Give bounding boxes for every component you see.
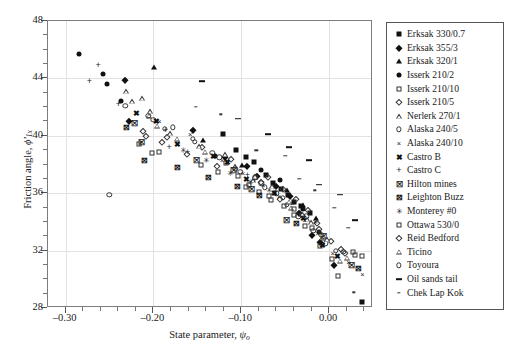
data-point (202, 149, 208, 154)
data-point (300, 202, 306, 207)
legend-item-chek-lap-kok[interactable]: Chek Lap Kok (393, 285, 503, 299)
data-point: × (261, 182, 265, 187)
data-point: ✳ (297, 209, 304, 214)
legend-label: Chek Lap Kok (406, 287, 464, 298)
data-point (280, 195, 285, 200)
data-point: ⊠ (293, 221, 300, 226)
data-point (273, 183, 279, 189)
data-point: ☒ (230, 168, 237, 173)
legend-item-erksak-330-0-7[interactable]: Erksak 330/0.7 (393, 27, 503, 41)
legend-item-toyoura[interactable]: Toyoura (393, 258, 503, 272)
marker-circle-open-sm (396, 263, 401, 268)
data-point (198, 162, 203, 167)
data-point: ✳ (312, 219, 319, 224)
data-point (257, 178, 263, 184)
data-point (219, 114, 222, 115)
data-point: ☒ (283, 218, 290, 223)
data-point (253, 175, 258, 180)
data-point (284, 188, 290, 193)
legend-item-isserk-210-5[interactable]: Isserk 210/5 (393, 95, 503, 109)
data-point (235, 173, 240, 178)
data-point (344, 255, 350, 260)
legend-item-nerlerk-270-1[interactable]: Nerlerk 270/1 (393, 109, 503, 123)
legend-label: Oil sands tail (406, 273, 458, 284)
legend-label: Monterey #0 (406, 205, 456, 216)
legend-item-ticino[interactable]: Ticino (393, 245, 503, 259)
gridline-vertical (153, 21, 154, 306)
marker-x: × (397, 141, 401, 146)
data-point: × (277, 194, 281, 199)
data-point (308, 219, 314, 224)
marker-square-x: ⊠ (396, 195, 403, 200)
legend-marker-triangle-filled-icon (393, 54, 406, 67)
legend-item-leighton-buzz[interactable]: ⊠Leighton Buzz (393, 190, 503, 204)
data-point (291, 212, 296, 217)
data-point (194, 106, 197, 107)
data-point (352, 292, 355, 293)
legend-label: Isserk 210/10 (406, 83, 459, 94)
data-point (305, 207, 311, 213)
data-point (319, 235, 325, 240)
legend-marker-x-bold-icon: ✖ (393, 150, 406, 163)
marker-star: ✳ (396, 209, 403, 214)
data-point (123, 89, 129, 94)
legend-label: Erksak 355/3 (406, 42, 458, 53)
data-point (298, 204, 303, 209)
legend-label: Isserk 210/2 (406, 69, 454, 80)
data-point: ⊠ (174, 165, 181, 170)
legend-label: Leighton Buzz (406, 191, 464, 202)
legend-item-oil-sands-tail[interactable]: Oil sands tail (393, 272, 503, 286)
legend-item-ottawa-530-0[interactable]: Ottawa 530/0 (393, 217, 503, 231)
data-point (190, 127, 196, 133)
legend-item-erksak-320-1[interactable]: Erksak 320/1 (393, 54, 503, 68)
marker-triangle-open (396, 113, 402, 118)
legend-item-isserk-210-2[interactable]: Isserk 210/2 (393, 68, 503, 82)
legend-item-monterey-0[interactable]: ✳Monterey #0 (393, 204, 503, 218)
data-point (314, 220, 320, 226)
data-point: + (245, 172, 250, 177)
marker-circle-filled (397, 73, 402, 78)
data-point: ⊠ (355, 265, 362, 270)
x-tick-minor (223, 307, 224, 311)
legend-item-reid-bedford[interactable]: Reid Bedford (393, 231, 503, 245)
y-tick-label: 28 (3, 302, 43, 313)
legend-item-erksak-355-3[interactable]: Erksak 355/3 (393, 41, 503, 55)
data-point (250, 178, 256, 183)
data-point: × (157, 119, 161, 124)
data-point (222, 152, 228, 157)
data-point (282, 204, 287, 209)
data-point (298, 178, 301, 179)
legend-marker-dash-long-icon (393, 272, 406, 285)
legend-item-isserk-210-10[interactable]: Isserk 210/10 (393, 81, 503, 95)
data-point (244, 163, 250, 169)
data-point: + (163, 128, 168, 133)
data-point: ✖ (300, 215, 307, 220)
data-point (232, 163, 238, 168)
legend-item-hilton-mines[interactable]: ☒Hilton mines (393, 177, 503, 191)
data-point (296, 210, 302, 216)
legend-marker-triangle-open-sm-icon (393, 245, 406, 258)
data-point (252, 173, 258, 178)
data-point (352, 220, 358, 222)
x-tick-minor (205, 307, 206, 311)
x-tick-label: –0.30 (42, 313, 88, 324)
figure-root: 283236404448 ××××××××××××✖✖✖✖✖✖✖✖✖✖+++++… (0, 0, 510, 353)
x-tick-minor (346, 307, 347, 311)
legend-label: Alaska 240/5 (406, 123, 458, 134)
x-tick-minor (117, 307, 118, 311)
x-tick-minor (170, 307, 171, 311)
legend-item-alaska-240-5[interactable]: Alaska 240/5 (393, 122, 503, 136)
legend-item-castro-c[interactable]: +Castro C (393, 163, 503, 177)
legend-item-castro-b[interactable]: ✖Castro B (393, 149, 503, 163)
data-point (224, 161, 229, 166)
data-point: ✖ (174, 142, 181, 147)
legend-marker-x-box-icon: ☒ (393, 177, 406, 190)
data-point (217, 155, 222, 160)
data-point: + (252, 178, 257, 183)
legend-label: Erksak 330/0.7 (406, 28, 465, 39)
data-point (235, 118, 241, 120)
marker-diamond-open-sm (396, 235, 402, 241)
data-point (259, 180, 264, 185)
legend-item-alaska-240-10[interactable]: ×Alaska 240/10 (393, 136, 503, 150)
data-point (292, 196, 298, 202)
